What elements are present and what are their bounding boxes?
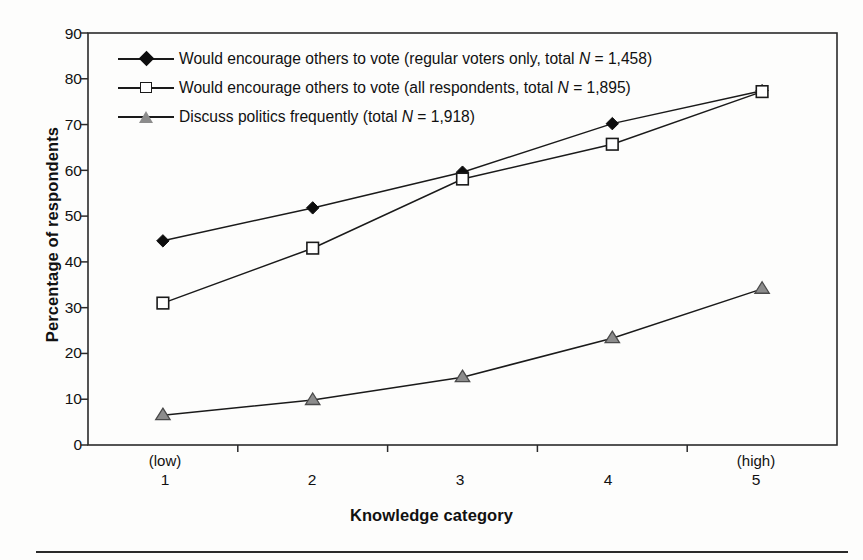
legend-text-pre-1: Would encourage others to vote (regular … — [179, 50, 579, 67]
legend-item-discuss-politics[interactable]: Discuss politics frequently (total N = 1… — [118, 102, 652, 131]
chart-legend: Would encourage others to vote (regular … — [118, 44, 652, 131]
legend-italic-n-1: N — [579, 50, 590, 67]
legend-label-all-respondents: Would encourage others to vote (all resp… — [179, 79, 631, 97]
legend-text-pre-3: Discuss politics frequently (total — [179, 108, 402, 125]
data-point-filled-diamond-2[interactable] — [307, 202, 319, 214]
legend-italic-n-3: N — [402, 108, 413, 125]
legend-label-discuss-politics: Discuss politics frequently (total N = 1… — [179, 108, 475, 126]
legend-item-regular-voters[interactable]: Would encourage others to vote (regular … — [118, 44, 652, 73]
chart-figure: Percentage of respondents 90 80 70 60 50… — [0, 0, 863, 560]
data-point-open-square-1[interactable] — [157, 297, 169, 309]
filled-diamond-icon — [138, 51, 154, 67]
data-point-filled-diamond-1[interactable] — [157, 235, 169, 247]
open-square-icon — [140, 82, 152, 94]
legend-italic-n-2: N — [558, 79, 569, 96]
legend-text-post-2: = 1,895) — [569, 79, 631, 96]
legend-key-open-square — [118, 78, 174, 98]
legend-label-regular-voters: Would encourage others to vote (regular … — [179, 50, 652, 68]
series-line-3 — [163, 289, 762, 415]
legend-key-filled-diamond — [118, 49, 174, 69]
data-point-open-square-3[interactable] — [457, 173, 469, 185]
legend-text-pre-2: Would encourage others to vote (all resp… — [179, 79, 558, 96]
data-point-open-square-4[interactable] — [607, 138, 619, 150]
data-point-grey-triangle-1[interactable] — [156, 408, 170, 420]
data-point-grey-triangle-5[interactable] — [755, 282, 769, 294]
legend-item-all-respondents[interactable]: Would encourage others to vote (all resp… — [118, 73, 652, 102]
figure-bottom-rule — [36, 551, 848, 553]
grey-triangle-icon — [139, 111, 153, 123]
legend-text-post-1: = 1,458) — [590, 50, 652, 67]
legend-key-grey-triangle — [118, 107, 174, 127]
legend-text-post-3: = 1,918) — [413, 108, 475, 125]
data-point-open-square-5[interactable] — [756, 86, 768, 98]
data-point-open-square-2[interactable] — [307, 242, 319, 254]
